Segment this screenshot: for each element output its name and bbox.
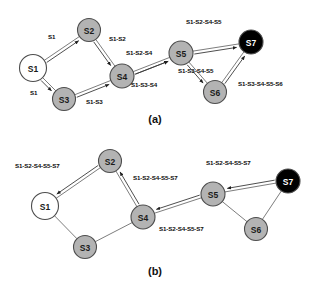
node-label: S3 (59, 95, 70, 105)
node-s3[interactable]: S3 (74, 236, 97, 259)
node-s6[interactable]: S6 (245, 218, 268, 241)
network-edge (95, 223, 132, 242)
message-label: S1 (30, 89, 38, 96)
node-label: S5 (208, 190, 219, 200)
message-label: S1-S2-S4 (126, 49, 153, 56)
message-label: S1-S2-S4-S5-S7 (159, 225, 204, 232)
node-s2[interactable]: S2 (99, 150, 122, 173)
message-arrow (77, 84, 109, 97)
message-label: S1-S2-S4-S5-S7 (133, 174, 178, 181)
panel-caption: (a) (148, 113, 162, 125)
node-label: S2 (84, 26, 95, 36)
node-s2[interactable]: S2 (78, 19, 101, 42)
node-label: S7 (246, 38, 257, 48)
node-s1[interactable]: S1 (32, 193, 59, 220)
message-label: S1-S3-S4-S5 (178, 67, 214, 74)
network-edge (222, 202, 247, 222)
node-s5[interactable]: S5 (201, 182, 225, 206)
message-label: S1-S3-S4-S5-S6 (238, 80, 283, 87)
message-arrow (135, 61, 168, 74)
network-edge (96, 39, 115, 66)
network-edge (75, 80, 111, 94)
message-arrow (94, 42, 111, 66)
node-label: S4 (117, 72, 128, 82)
message-label: S1-S2-S4-S5-S7 (15, 162, 60, 169)
node-label: S4 (138, 213, 149, 223)
node-label: S6 (251, 225, 262, 235)
panel-a: S1S2S3S4S5S6S7S1S1S1-S2S1-S3S1-S2-S4S1-S… (20, 18, 284, 125)
panel-b: S1S2S3S4S5S6S7S1-S2-S4-S5-S7S1-S2-S4-S5-… (15, 150, 300, 278)
network-edge (56, 168, 100, 199)
message-label: S1-S3-S4 (131, 81, 158, 88)
node-s4[interactable]: S4 (131, 205, 155, 229)
network-edge (262, 191, 281, 219)
network-edge (133, 57, 170, 71)
network-edge (44, 36, 79, 60)
message-arrow (156, 195, 199, 209)
node-s7[interactable]: S7 (276, 169, 300, 193)
panel-caption: (b) (148, 265, 162, 277)
network-edge (222, 52, 244, 83)
message-arrow (47, 41, 79, 63)
network-diagram: S1S2S3S4S5S6S7S1S1S1-S2S1-S3S1-S2-S4S1-S… (0, 0, 318, 291)
node-label: S2 (105, 157, 116, 167)
node-label: S6 (210, 88, 221, 98)
message-label: S1-S2 (109, 35, 126, 42)
network-edge (54, 216, 77, 239)
node-label: S1 (28, 64, 39, 74)
network-edge (193, 44, 239, 51)
message-label: S1 (48, 33, 56, 40)
node-s6[interactable]: S6 (204, 81, 227, 104)
node-s5[interactable]: S5 (169, 41, 193, 65)
node-s7[interactable]: S7 (239, 30, 263, 54)
node-s1[interactable]: S1 (20, 55, 47, 82)
message-arrow (57, 166, 98, 194)
message-label: S1-S2-S4-S5 (186, 18, 222, 25)
message-arrow (41, 80, 51, 90)
message-label: S1-S2-S4-S5-S7 (206, 159, 251, 166)
figure-container: S1S2S3S4S5S6S7S1S1S1-S2S1-S3S1-S2-S4S1-S… (0, 0, 318, 291)
node-label: S7 (283, 177, 294, 187)
node-label: S5 (176, 49, 187, 59)
message-label: S1-S3 (86, 98, 103, 105)
node-label: S3 (80, 243, 91, 253)
network-edge (154, 198, 201, 214)
message-arrow (194, 47, 236, 54)
node-s3[interactable]: S3 (53, 88, 76, 111)
node-label: S1 (40, 202, 51, 212)
